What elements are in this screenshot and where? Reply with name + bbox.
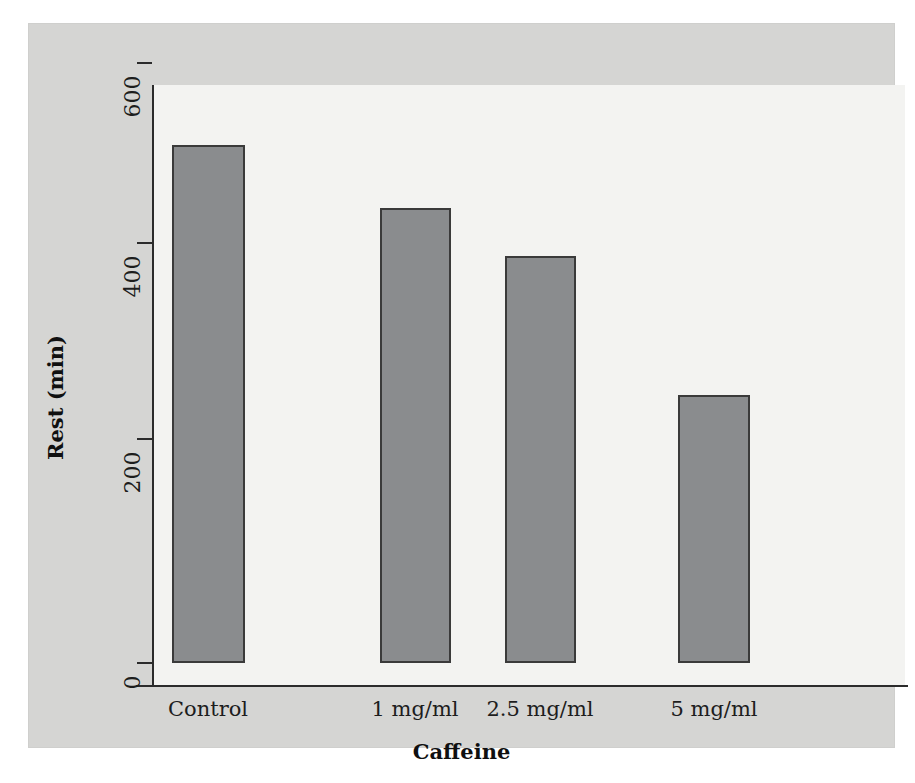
x-tick-label-2-5-mg-ml: 2.5 mg/ml	[460, 697, 620, 721]
x-axis-line	[136, 685, 908, 687]
y-tick-mark-200	[137, 438, 152, 440]
y-tick-mark-600	[137, 62, 152, 64]
y-axis-line	[152, 85, 154, 687]
x-tick-label-control: Control	[128, 697, 288, 721]
y-tick-label-600: 600	[120, 76, 145, 118]
figure-panel: 600 400 200 0 Rest (min) Control 1 mg/ml…	[28, 23, 895, 748]
x-axis-title: Caffeine	[28, 739, 895, 764]
bar-1-mg-ml	[380, 208, 451, 663]
bar-control	[172, 145, 245, 663]
y-tick-label-200: 200	[120, 452, 145, 494]
y-tick-label-0: 0	[120, 676, 145, 690]
y-tick-mark-400	[137, 242, 152, 244]
bar-5-mg-ml	[678, 395, 750, 663]
figure-page: 600 400 200 0 Rest (min) Control 1 mg/ml…	[0, 0, 915, 783]
y-axis-title: Rest (min)	[43, 298, 68, 498]
bar-2-5-mg-ml	[505, 256, 576, 663]
x-tick-label-5-mg-ml: 5 mg/ml	[634, 697, 794, 721]
y-tick-mark-0	[137, 662, 152, 664]
y-tick-label-400: 400	[120, 256, 145, 298]
